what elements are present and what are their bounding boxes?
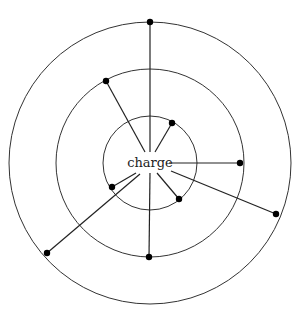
spoke-lower-right-short <box>157 173 179 199</box>
concentric-charge-diagram: charge <box>0 0 295 312</box>
spoke-lower-left-short-endpoint-dot <box>109 184 115 190</box>
spoke-bottom <box>149 173 150 257</box>
spoke-upper-left-endpoint-dot <box>103 78 109 84</box>
spoke-lower-left-long <box>47 174 140 253</box>
spoke-upper-left <box>106 81 145 152</box>
spoke-lower-right-long-endpoint-dot <box>273 211 279 217</box>
spoke-top-endpoint-dot <box>147 19 153 25</box>
center-label: charge <box>127 155 173 170</box>
spokes-group <box>47 22 276 257</box>
spoke-right-endpoint-dot <box>237 160 243 166</box>
spoke-upper-right-endpoint-dot <box>169 120 175 126</box>
spoke-upper-right <box>155 123 172 152</box>
spoke-lower-right-short-endpoint-dot <box>176 196 182 202</box>
spoke-bottom-endpoint-dot <box>146 254 152 260</box>
spoke-lower-left-long-endpoint-dot <box>44 250 50 256</box>
